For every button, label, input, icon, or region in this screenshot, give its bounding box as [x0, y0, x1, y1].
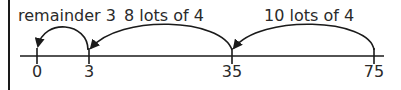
- label-8-lots: 8 lots of 4: [124, 8, 204, 24]
- tick-label-0: 0: [32, 64, 42, 80]
- jump-arrow-8-lots: [91, 24, 232, 50]
- jump-arrow-10-lots: [234, 24, 374, 50]
- jump-arrow-remainder: [38, 27, 88, 50]
- tick-label-75: 75: [364, 64, 384, 80]
- tick-label-35: 35: [222, 64, 242, 80]
- label-remainder: remainder 3: [18, 8, 116, 24]
- label-10-lots: 10 lots of 4: [264, 8, 354, 24]
- tick-label-3: 3: [84, 64, 94, 80]
